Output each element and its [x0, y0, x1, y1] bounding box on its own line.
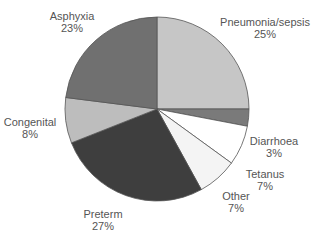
slice-label-name: Other — [222, 190, 250, 202]
slice-label: Congenital8% — [4, 116, 57, 140]
slice-label-percent: 25% — [220, 28, 310, 40]
slice-label-percent: 7% — [246, 180, 285, 192]
slice-label-percent: 8% — [4, 128, 57, 140]
slice-label-percent: 7% — [222, 202, 250, 214]
slice-label-percent: 27% — [83, 220, 122, 232]
slice-label-name: Congenital — [4, 116, 57, 128]
slice-label: Pneumonia/sepsis25% — [220, 16, 310, 40]
slice-label: Asphyxia23% — [50, 10, 95, 34]
slice-label: Other7% — [222, 190, 250, 214]
slice-label: Tetanus7% — [246, 168, 285, 192]
slice-label-name: Pneumonia/sepsis — [220, 16, 310, 28]
slice-label-name: Diarrhoea — [250, 135, 298, 147]
slice-label-name: Asphyxia — [50, 10, 95, 22]
slice-label-percent: 3% — [250, 147, 298, 159]
slice-label: Preterm27% — [83, 208, 122, 232]
slice-label-percent: 23% — [50, 22, 95, 34]
slice-label-name: Preterm — [83, 208, 122, 220]
slice-label-name: Tetanus — [246, 168, 285, 180]
slice-label: Diarrhoea3% — [250, 135, 298, 159]
